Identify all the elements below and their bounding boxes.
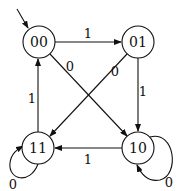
state-01: 01: [122, 26, 154, 58]
edge-label-11-00: 1: [28, 91, 36, 106]
edge-label-01-10: 1: [139, 84, 147, 99]
edge-label-11-11: 0: [9, 177, 17, 191]
state-label: 11: [29, 140, 47, 156]
state-label: 10: [129, 140, 147, 156]
state-11: 11: [22, 132, 54, 164]
edge-label-10-11: 1: [84, 152, 92, 167]
state-00: 00: [23, 26, 55, 58]
edge-label-01-11: 0: [111, 64, 119, 79]
start-arrow: [17, 9, 28, 28]
state-label: 00: [30, 34, 48, 50]
edge-label-00-01: 1: [84, 26, 92, 41]
edge-label-10-10: 0: [165, 175, 173, 190]
state-label: 01: [129, 34, 147, 50]
state-10: 10: [122, 132, 154, 164]
edge-label-00-10: 0: [66, 59, 74, 74]
state-diagram: 00 01 11 10 1 0 0 1 1 0 1 0: [0, 0, 182, 191]
